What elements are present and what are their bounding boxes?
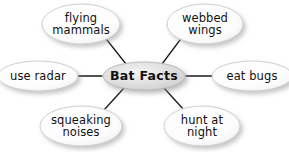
mind-map-diagram: flying mammalswebbed wingsuse radareat b… <box>0 0 289 152</box>
connector-flying-mammals <box>107 40 126 64</box>
node-eat-bugs[interactable] <box>212 61 289 91</box>
node-hunt-at-night[interactable] <box>164 106 240 146</box>
connector-squeaking-noises <box>104 88 124 110</box>
diagram-canvas <box>0 0 289 152</box>
node-webbed-wings[interactable] <box>167 4 243 44</box>
center-node-shape <box>103 62 185 90</box>
connector-webbed-wings <box>162 40 180 64</box>
node-squeaking-noises[interactable] <box>40 106 122 146</box>
node-use-radar[interactable] <box>0 61 78 91</box>
node-center-bat-facts[interactable] <box>103 62 185 90</box>
node-flying-mammals[interactable] <box>42 4 120 44</box>
connector-hunt-at-night <box>164 88 184 110</box>
